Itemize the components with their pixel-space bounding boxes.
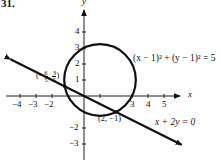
x-tick-label: 5 xyxy=(162,100,167,109)
y-tick-label: −3 xyxy=(69,139,79,148)
graph-canvas xyxy=(0,0,220,160)
y-axis-label: y xyxy=(82,0,86,6)
x-tick-label: 3 xyxy=(130,100,135,109)
x-tick-label: −4 xyxy=(12,100,22,109)
x-axis-label: x xyxy=(188,90,192,99)
problem-number: 31. xyxy=(1,0,15,9)
y-tick-label: 3 xyxy=(75,43,80,52)
y-tick-label: 1 xyxy=(75,75,80,84)
line-equation-label: x + 2y = 0 xyxy=(155,118,195,128)
x-tick-label: 4 xyxy=(146,100,151,109)
point-label-2: (2, −1) xyxy=(98,114,121,123)
point-label-1: (−65, 35) xyxy=(36,70,59,83)
y-tick-label: −2 xyxy=(69,123,79,132)
intersection-point-1 xyxy=(63,85,67,89)
x-tick-label: −3 xyxy=(28,100,38,109)
circle-equation-label: (x − 1)² + (y − 1)² = 5 xyxy=(133,54,216,64)
y-tick-label: 4 xyxy=(75,27,80,36)
y-tick-label: 2 xyxy=(75,59,80,68)
x-tick-label: −2 xyxy=(44,100,54,109)
figure: 31. y x −4 −3 −2 3 4 5 4 3 2 1 −2 −3 (x … xyxy=(0,0,220,160)
